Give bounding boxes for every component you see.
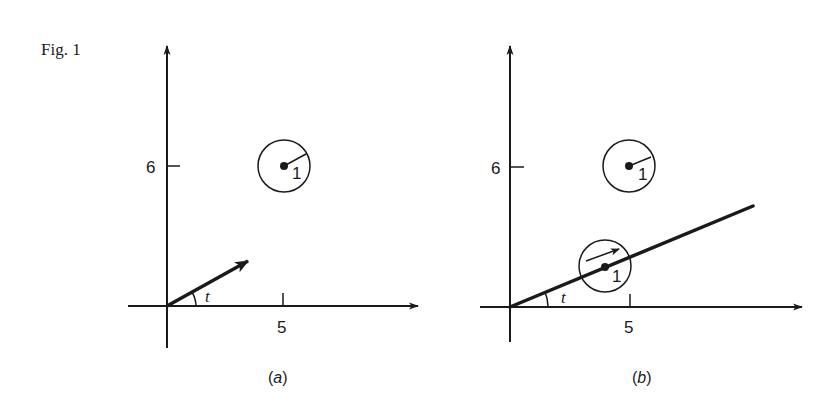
x-tick-label: 5 [277,318,286,337]
angle-label: t [205,287,211,306]
angle-arc [192,292,196,306]
caption-b: (b) [632,369,652,386]
radius-label: 1 [638,165,647,184]
caption-a: (a) [268,369,288,386]
y-tick-label: 6 [491,159,500,178]
motion-arrow [586,249,619,261]
y-tick-label: 6 [146,158,155,177]
trajectory-ray [510,206,753,307]
panel-b: 6 5 1 1 t (b) [480,46,802,386]
moving-circle-center-dot [601,263,609,271]
radius-label: 1 [292,164,301,183]
angle-label: t [561,288,567,307]
panel-a: 6 5 1 t (a) [128,46,418,386]
figure-canvas: 6 5 1 t (a) 6 5 1 1 t (b) [0,0,834,406]
moving-radius-label: 1 [612,267,621,286]
angle-arc [545,292,548,307]
x-tick-label: 5 [624,318,633,337]
